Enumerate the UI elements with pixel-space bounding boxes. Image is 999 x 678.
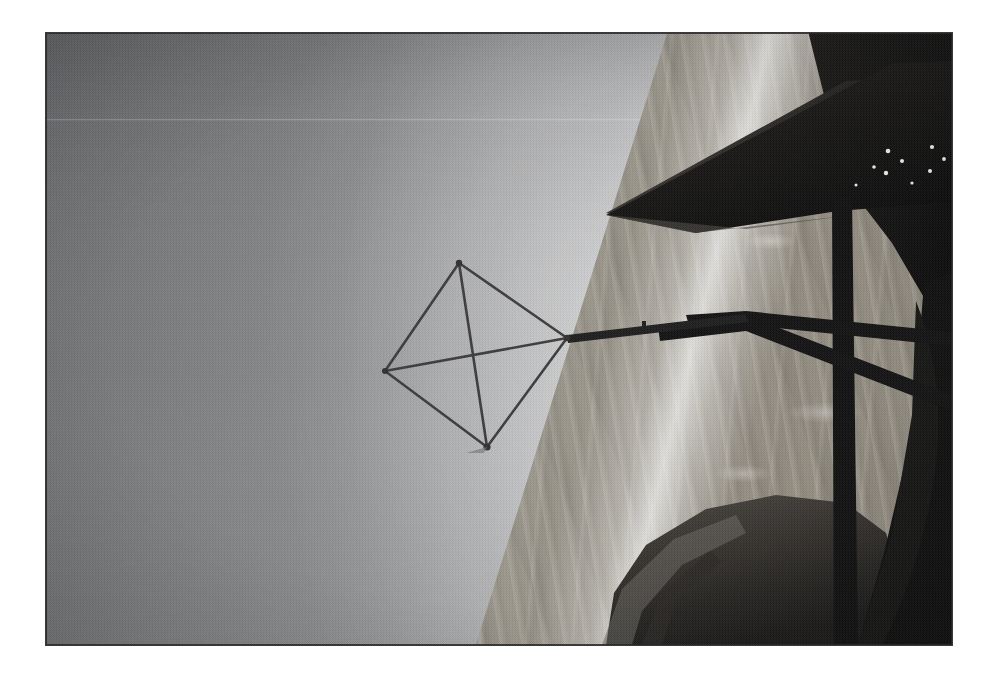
aircraft-hardware-layer [46, 33, 952, 645]
kite-edge-left-right [385, 338, 567, 371]
tether-knot [642, 321, 646, 329]
kite-edge-top-left [385, 263, 459, 371]
kite-vertex-top [456, 260, 462, 266]
kite-vertex-right [564, 335, 570, 341]
kite-edge-top-right [459, 263, 567, 338]
kite-edge-bottom-right [487, 338, 567, 447]
kite-frame [385, 263, 567, 447]
kite-edge-left-bottom [385, 371, 487, 447]
kite-vertex-left [382, 368, 388, 374]
photograph [46, 33, 952, 645]
mast [832, 197, 858, 645]
kite-edge-top-bottom [459, 263, 487, 447]
page-root [0, 0, 999, 678]
